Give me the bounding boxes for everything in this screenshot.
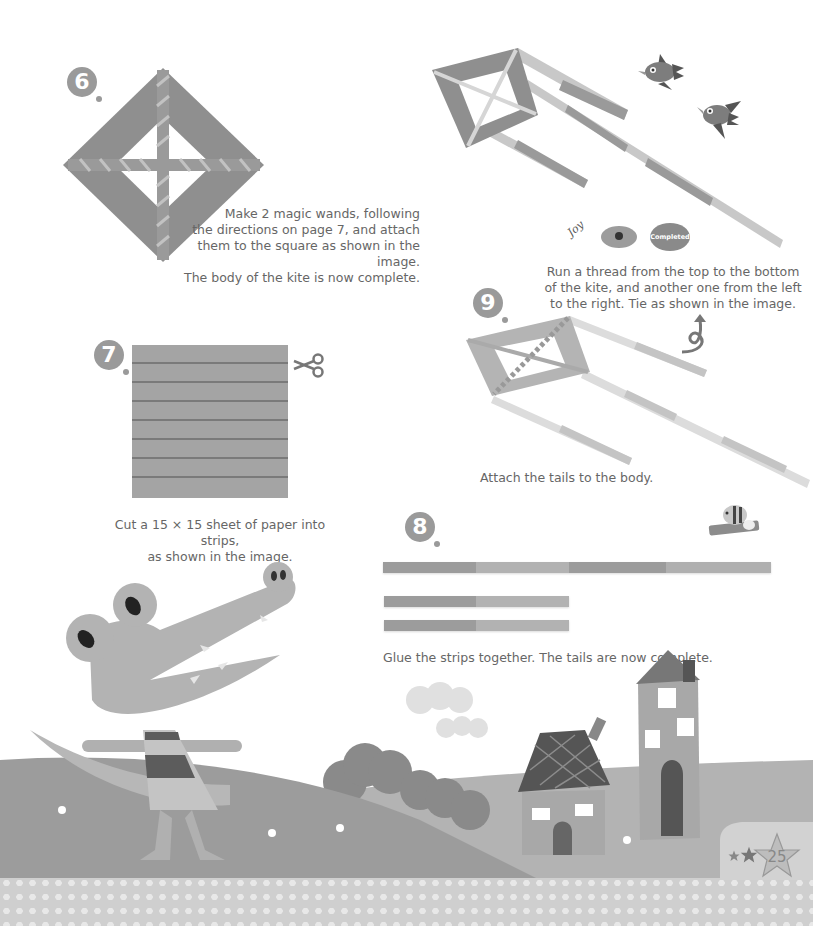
bird-icon [638,54,688,90]
caption-line: Run a thread from the top to the bottom [540,264,806,280]
completed-stamp: Completed [650,223,690,251]
caption-line: Attach the tails to the body. [480,470,780,486]
star-icon [728,850,740,862]
bird-icon [697,99,745,139]
step-9-caption: Attach the tails to the body. [480,470,780,486]
scenery-illustration [0,560,813,926]
thread-knot-icon [678,314,714,356]
dotted-footer-band [0,876,813,926]
paint-blob-icon [601,226,637,248]
caption-line: The body of the kite is now complete. [180,270,420,286]
caption-line: the directions on page 7, and attach [180,222,420,238]
page-number: 25 [762,848,792,866]
step-9-kite-illustration [462,310,813,490]
caption-line: Make 2 magic wands, following [180,206,420,222]
step-7-paper-sheet [132,345,288,498]
glue-stick-bee-icon [705,503,763,539]
cloud-icon [406,682,488,738]
completed-kite-illustration [428,40,813,250]
step-7-badge: 7 [94,340,124,370]
completed-caption: Run a thread from the top to the bottom … [540,264,806,312]
step-7-caption: Cut a 15 × 15 sheet of paper into strips… [100,517,340,565]
scissors-icon [292,353,326,379]
caption-line: of the kite, and another one from the le… [540,280,806,296]
step-6-caption: Make 2 magic wands, following the direct… [180,206,420,286]
caption-line: Cut a 15 × 15 sheet of paper into strips… [100,517,340,549]
caption-line: them to the square as shown in the image… [180,238,420,270]
house-illustration [518,717,610,855]
step-8-badge: 8 [405,512,435,542]
house-illustration [636,650,700,840]
